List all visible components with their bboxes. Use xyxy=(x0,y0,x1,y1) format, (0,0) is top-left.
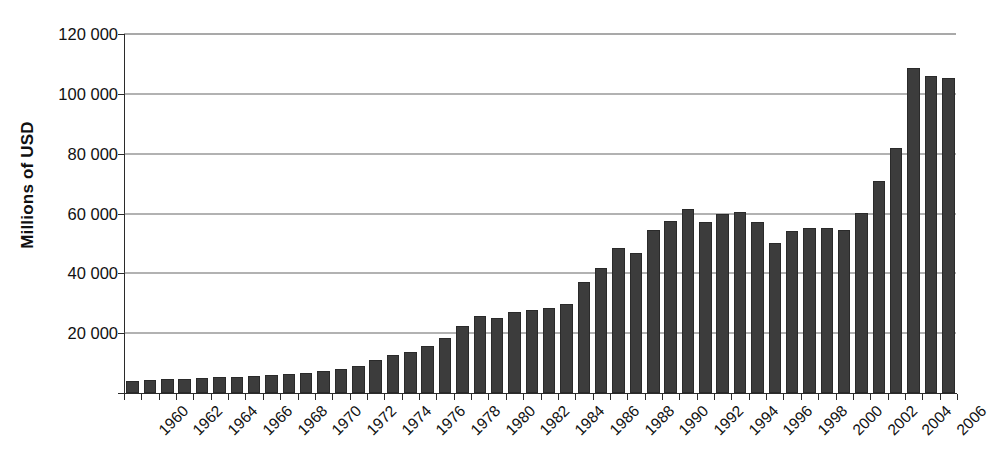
x-tick xyxy=(176,394,177,400)
x-tick-label: 1986 xyxy=(606,402,643,439)
x-tick xyxy=(506,394,507,400)
x-tick xyxy=(124,394,125,400)
x-tick xyxy=(836,394,837,400)
x-tick xyxy=(922,394,923,400)
y-tick-20000 xyxy=(118,333,125,334)
x-tick-label: 1994 xyxy=(745,402,782,439)
x-tick xyxy=(454,394,455,400)
y-tick-80000 xyxy=(118,154,125,155)
y-tick-60000 xyxy=(118,214,125,215)
x-tick xyxy=(367,394,368,400)
x-tick-label: 1966 xyxy=(259,402,296,439)
x-tick xyxy=(263,394,264,400)
x-tick-label: 2006 xyxy=(953,402,990,439)
x-tick xyxy=(141,394,142,400)
x-tick-label: 2004 xyxy=(918,402,955,439)
x-tick xyxy=(419,394,420,400)
x-tick-label: 1996 xyxy=(780,402,817,439)
x-tick-label: 1990 xyxy=(675,402,712,439)
y-tick-100000 xyxy=(118,94,125,95)
x-tick xyxy=(471,394,472,400)
x-tick xyxy=(298,394,299,400)
x-tick-label: 2000 xyxy=(849,402,886,439)
x-tick xyxy=(957,394,958,400)
x-tick xyxy=(488,394,489,400)
x-tick xyxy=(645,394,646,400)
x-tick-label: 1992 xyxy=(710,402,747,439)
x-tick xyxy=(350,394,351,400)
x-tick xyxy=(870,394,871,400)
x-tick-label: 1984 xyxy=(571,402,608,439)
x-tick xyxy=(193,394,194,400)
x-tick xyxy=(228,394,229,400)
x-tick-label: 1978 xyxy=(467,402,504,439)
x-tick xyxy=(541,394,542,400)
x-tick xyxy=(245,394,246,400)
x-tick-label: 1964 xyxy=(224,402,261,439)
x-tick xyxy=(436,394,437,400)
x-tick xyxy=(853,394,854,400)
y-tick-40000 xyxy=(118,273,125,274)
x-tick xyxy=(888,394,889,400)
x-tick xyxy=(714,394,715,400)
x-tick xyxy=(766,394,767,400)
x-tick xyxy=(940,394,941,400)
x-tick-label: 1962 xyxy=(189,402,226,439)
x-tick xyxy=(783,394,784,400)
x-tick-label: 1988 xyxy=(641,402,678,439)
x-tick xyxy=(905,394,906,400)
x-tick-label: 1968 xyxy=(294,402,331,439)
x-tick xyxy=(801,394,802,400)
x-tick xyxy=(627,394,628,400)
x-tick xyxy=(315,394,316,400)
x-tick-label: 1998 xyxy=(814,402,851,439)
x-tick xyxy=(593,394,594,400)
x-tick xyxy=(575,394,576,400)
x-tick-label: 1960 xyxy=(155,402,192,439)
x-tick-label: 1970 xyxy=(328,402,365,439)
x-tick xyxy=(610,394,611,400)
x-tick xyxy=(384,394,385,400)
x-tick-label: 2002 xyxy=(884,402,921,439)
x-tick xyxy=(749,394,750,400)
x-tick xyxy=(280,394,281,400)
x-tick xyxy=(523,394,524,400)
x-tick-label: 1980 xyxy=(502,402,539,439)
x-tick-label: 1972 xyxy=(363,402,400,439)
x-tick xyxy=(332,394,333,400)
x-tick-label: 1976 xyxy=(432,402,469,439)
x-tick xyxy=(679,394,680,400)
x-tick-label: 1982 xyxy=(537,402,574,439)
x-tick xyxy=(211,394,212,400)
y-tick-120000 xyxy=(118,34,125,35)
x-tick-label: 1974 xyxy=(398,402,435,439)
x-tick xyxy=(818,394,819,400)
x-tick xyxy=(731,394,732,400)
x-tick xyxy=(558,394,559,400)
x-tick xyxy=(662,394,663,400)
x-tick xyxy=(159,394,160,400)
x-tick xyxy=(697,394,698,400)
x-tick xyxy=(402,394,403,400)
